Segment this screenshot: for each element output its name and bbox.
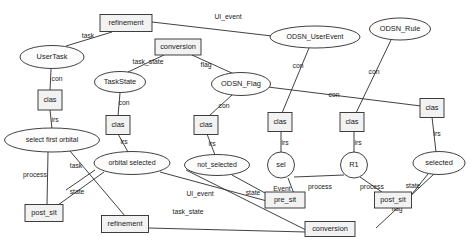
node-label: clas	[345, 117, 358, 126]
edge-label: irs	[354, 139, 362, 146]
edge-label: irs	[433, 130, 441, 137]
graph-edge	[282, 48, 309, 113]
node-clas_4[interactable]: clas	[268, 113, 292, 132]
node-label: conversion	[312, 224, 348, 233]
nodes-layer: refinementUserTaskconversionODSN_UserEve…	[5, 15, 466, 237]
edge-label: process	[308, 183, 332, 191]
edge-label: con	[119, 99, 130, 106]
edge-label: con	[52, 75, 63, 82]
edge-label: UI_event	[214, 13, 241, 21]
edge-label: state	[246, 189, 261, 196]
node-odsn_userevent[interactable]: ODSN_UserEvent	[270, 26, 360, 48]
node-label: clas	[199, 120, 212, 129]
node-refinement_bot[interactable]: refinement	[102, 216, 149, 233]
node-label: ODSN_Flag	[221, 79, 261, 88]
node-conversion_bot[interactable]: conversion	[305, 222, 355, 237]
node-label: R1	[349, 160, 358, 169]
node-selected[interactable]: selected	[413, 152, 465, 175]
edge-label: irs	[208, 140, 216, 147]
graph-edge	[152, 22, 272, 36]
node-label: post_sit	[31, 208, 56, 217]
node-conversion_top[interactable]: conversion	[155, 39, 201, 55]
node-odsn_flag[interactable]: ODSN_Flag	[212, 73, 271, 96]
edge-label: state	[70, 188, 85, 195]
node-select_first[interactable]: select first orbital	[5, 128, 100, 152]
node-label: selected	[425, 158, 453, 167]
edge-label: con	[369, 68, 380, 75]
node-clas_3[interactable]: clas	[194, 116, 218, 135]
edge-label: state	[406, 182, 421, 189]
node-clas_5[interactable]: clas	[340, 113, 364, 132]
edge-label: task	[70, 162, 83, 169]
edge-label: task	[82, 32, 95, 39]
node-refinement_top[interactable]: refinement	[100, 15, 152, 32]
edge-label: con	[293, 62, 304, 69]
edge-label: process	[360, 183, 384, 191]
edge-label: process	[23, 171, 47, 179]
node-label: pre_sit	[274, 195, 296, 204]
graph-edge	[268, 87, 421, 106]
node-label: clas	[273, 117, 286, 126]
node-label: UserTask	[37, 52, 68, 61]
node-clas_6[interactable]: clas	[420, 99, 444, 118]
node-label: conversion	[160, 42, 196, 51]
edge-label: irs	[51, 116, 59, 123]
edge-label: UI_event	[186, 190, 213, 198]
node-r1[interactable]: R1	[341, 152, 368, 178]
edge-label: con	[219, 102, 230, 109]
node-label: not_selected	[197, 161, 237, 169]
node-taskstate[interactable]: TaskState	[95, 72, 146, 93]
graph-edge	[148, 228, 306, 232]
graph-edge	[47, 152, 48, 205]
node-label: refinement	[109, 18, 144, 27]
node-usertask[interactable]: UserTask	[20, 46, 84, 69]
node-orbital_selected[interactable]: orbital selected	[94, 152, 170, 175]
graph-svg: taskUI_eventtask_stateflagconconconconco…	[0, 0, 475, 249]
node-post_sit_left[interactable]: post_sit	[25, 205, 63, 222]
edge-label: task_state	[133, 58, 164, 66]
graph-edge	[192, 55, 234, 74]
edge-label: irs	[120, 138, 128, 145]
edge-label: irs	[281, 139, 289, 146]
node-label: select first orbital	[26, 136, 79, 143]
graph-edge	[294, 175, 344, 177]
edge-label: con	[329, 91, 340, 98]
node-not_selected[interactable]: not_selected	[185, 155, 250, 176]
node-odsn_rule[interactable]: ODSN_Rule	[370, 18, 431, 40]
node-label: sel	[276, 160, 286, 169]
node-label: orbital selected	[108, 159, 155, 166]
node-pre_sit[interactable]: pre_sit	[265, 192, 305, 208]
node-label: ODSN_UserEvent	[287, 33, 344, 41]
node-sel[interactable]: sel	[268, 152, 295, 178]
node-label: TaskState	[104, 77, 136, 86]
edge-label: flag	[201, 61, 212, 69]
node-post_sit_right[interactable]: post_sit	[375, 192, 412, 208]
diagram-canvas: taskUI_eventtask_stateflagconconconconco…	[0, 0, 475, 249]
edge-label: Event	[273, 185, 290, 192]
node-label: refinement	[108, 219, 143, 228]
node-clas_2[interactable]: clas	[106, 116, 130, 135]
node-label: clas	[425, 103, 438, 112]
node-clas_1[interactable]: clas	[38, 90, 62, 110]
node-label: clas	[43, 95, 56, 104]
node-label: ODSN_Rule	[380, 24, 421, 33]
edge-label: task_state	[173, 208, 204, 216]
node-label: clas	[111, 120, 124, 129]
node-label: post_sit	[380, 195, 405, 204]
